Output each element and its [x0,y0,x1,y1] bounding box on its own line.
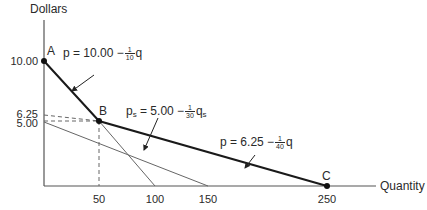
x-tick-50: 50 [84,193,114,205]
equation-demand-a: p = 10.00 −110q [63,46,142,61]
x-tick-100: 100 [140,193,170,205]
x-tick-150: 150 [193,193,223,205]
eq-c-lhs: p [220,135,227,149]
eq-a-var: q [136,46,143,60]
point-c-marker [324,183,330,189]
eq-c-fraction: 140 [275,135,285,150]
demand-a-extension [99,121,155,186]
y-tick-10: 10.00 [0,55,38,67]
eq-s-lhs: p [126,104,133,118]
supply-line [44,122,208,186]
eq-c-den: 40 [275,143,285,150]
chart-canvas [0,0,427,210]
eq-s-var-sub: s [203,110,207,119]
eq-s-den: 30 [185,112,195,119]
point-c-label: C [322,170,331,182]
demand-c-dashed-extension [44,115,99,121]
kinked-demand-curve [44,61,327,186]
y-tick-5: 5.00 [0,117,38,129]
eq-s-var: q [196,104,203,118]
eq-s-rhs: = 5.00 − [140,104,184,118]
equation-demand-c: p = 6.25 −140q [220,135,293,150]
eq-a-rhs: = 10.00 − [73,46,124,60]
point-b-marker [96,118,102,124]
eq-a-fraction: 110 [125,46,135,61]
point-a-label: A [47,45,55,57]
eq-c-var: q [286,135,293,149]
point-b-label: B [99,105,107,117]
eq-a-lhs: p [63,46,70,60]
point-a-marker [41,58,47,64]
eq-c-num: 1 [275,135,285,143]
eq-c-rhs: = 6.25 − [230,135,274,149]
eq-a-num: 1 [125,46,135,54]
eq-s-num: 1 [185,104,195,112]
eq-s-lhs-sub: s [133,110,137,119]
x-tick-250: 250 [312,193,342,205]
y-axis-label: Dollars [30,3,67,15]
equation-supply: ps = 5.00 −130qs [126,104,207,121]
arrow-demand-a [72,75,94,91]
x-axis-label: Quantity [380,180,425,192]
eq-s-fraction: 130 [185,104,195,119]
eq-a-den: 10 [125,54,135,61]
